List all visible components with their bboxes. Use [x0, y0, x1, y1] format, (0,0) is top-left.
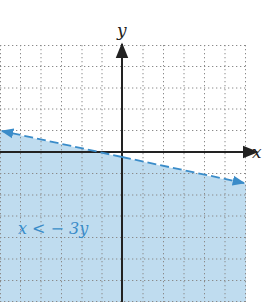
inequality-graph: x y x < − 3y [0, 0, 269, 305]
x-axis-label: x [252, 142, 262, 162]
y-axis-label: y [116, 20, 127, 40]
inequality-label: x < − 3y [18, 219, 89, 238]
